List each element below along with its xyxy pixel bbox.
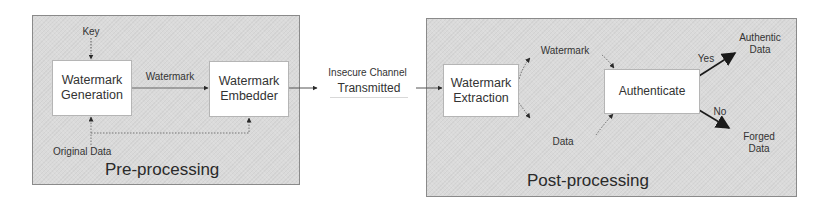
watermark-extraction-box: Watermark Extraction [443,64,519,117]
watermark-embedder-line1: Watermark [219,74,280,89]
watermark-extraction-line2: Extraction [453,91,509,106]
watermark-generation-line1: Watermark [62,73,123,88]
authentic-data-output: Authentic Data [733,32,787,56]
forged-data-line1: Forged [737,131,781,143]
watermark-generation-line2: Generation [61,88,123,103]
no-label: No [711,106,729,117]
key-label: Key [80,26,102,37]
post-watermark-label: Watermark [535,45,595,56]
watermark-embedder-box: Watermark Embedder [209,61,289,117]
post-processing-title: Post-processing [527,171,649,191]
transmitted-label: Transmitted [330,81,408,98]
insecure-channel-label: Insecure Channel [320,67,415,78]
forged-data-output: Forged Data [737,131,781,155]
forged-data-line2: Data [737,143,781,155]
watermark-generation-box: Watermark Generation [52,60,132,116]
watermark-arrow-label: Watermark [141,71,199,82]
yes-label: Yes [695,53,717,64]
authenticate-label: Authenticate [619,84,686,99]
original-data-label: Original Data [53,146,125,157]
authentic-data-line1: Authentic [733,32,787,44]
watermark-embedder-line2: Embedder [220,89,278,104]
authentic-data-line2: Data [733,44,787,56]
watermark-extraction-line1: Watermark [451,76,512,91]
pre-processing-title: Pre-processing [105,160,219,180]
authenticate-box: Authenticate [604,69,700,114]
post-data-label: Data [548,136,578,147]
